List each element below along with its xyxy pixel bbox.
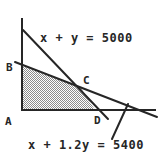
vertex-label-d: D [94,115,101,126]
linear-programming-diagram: A B C D x + y = 5000 x + 1.2y = 5400 [0,0,164,167]
vertex-label-c: C [83,75,90,86]
equation-label-weighted: x + 1.2y = 5400 [28,139,144,151]
vertex-label-b: B [6,62,13,73]
vertex-label-a: A [5,116,12,127]
equation-label-sum: x + y = 5000 [40,32,133,44]
